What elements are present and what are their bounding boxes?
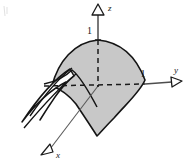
z-axis-label: z bbox=[107, 3, 112, 13]
y-axis-tick-label: 1 bbox=[141, 68, 146, 79]
figure-container: z 1 y 1 x bbox=[0, 0, 189, 168]
surface-plot-figure: z 1 y 1 x bbox=[0, 0, 189, 168]
x-axis-label: x bbox=[55, 150, 60, 160]
origin-point bbox=[97, 85, 99, 87]
z-axis-tick-label: 1 bbox=[87, 25, 92, 36]
y-axis-label: y bbox=[173, 65, 178, 75]
